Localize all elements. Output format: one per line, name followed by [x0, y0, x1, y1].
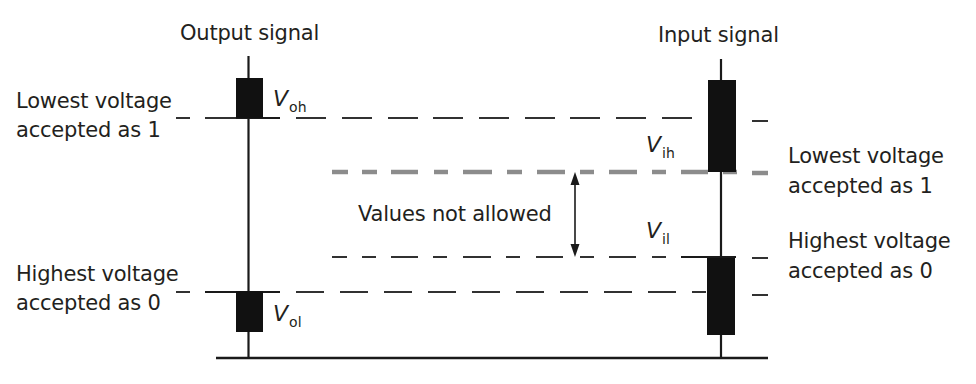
- output-high-label-line2: accepted as 1: [16, 117, 161, 144]
- vih-dashed-line: [332, 172, 768, 173]
- input-low-label-line2: accepted as 0: [788, 258, 933, 285]
- vol-symbol: Vol: [273, 301, 302, 326]
- voh-symbol-subscript: oh: [289, 99, 306, 115]
- output-low-band: [236, 291, 263, 332]
- input-high-label-line1: Lowest voltage: [788, 143, 944, 170]
- vil-symbol: Vil: [646, 218, 670, 243]
- output-high-band: [236, 78, 263, 118]
- vih-symbol: Vih: [646, 132, 675, 157]
- vil-symbol-subscript: il: [662, 231, 670, 247]
- forbidden-region-arrow: [571, 172, 580, 257]
- vol-dashed-line: [176, 292, 768, 295]
- input-high-band: [708, 80, 736, 172]
- vol-symbol-subscript: ol: [289, 314, 301, 330]
- values-not-allowed-label: Values not allowed: [358, 201, 552, 228]
- vih-symbol-subscript: ih: [662, 145, 675, 161]
- input-low-band: [707, 258, 735, 335]
- input-signal-title: Input signal: [658, 22, 779, 49]
- vol-symbol-base: V: [273, 301, 288, 326]
- output-signal-title: Output signal: [180, 20, 319, 47]
- vil-dashed-line: [332, 257, 768, 258]
- voh-symbol: Voh: [273, 86, 307, 111]
- input-low-label-line1: Highest voltage: [788, 228, 951, 255]
- output-high-label-line1: Lowest voltage: [16, 88, 172, 115]
- vil-symbol-base: V: [646, 218, 661, 243]
- vih-symbol-base: V: [646, 132, 661, 157]
- voh-symbol-base: V: [273, 86, 288, 111]
- output-low-label-line1: Highest voltage: [16, 261, 179, 288]
- input-high-label-line2: accepted as 1: [788, 173, 933, 200]
- voh-dashed-line: [176, 118, 768, 121]
- output-low-label-line2: accepted as 0: [16, 290, 161, 317]
